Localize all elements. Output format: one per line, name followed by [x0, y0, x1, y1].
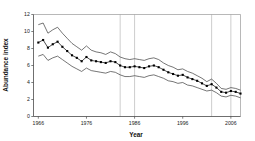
data-point-marker [215, 87, 217, 89]
data-point-marker [206, 85, 208, 87]
data-point-marker [153, 64, 155, 66]
x-tick-label-1986: 1986 [129, 120, 141, 126]
data-point-marker [167, 71, 169, 73]
x-tick-label-1976: 1976 [81, 120, 93, 126]
data-point-marker [162, 69, 164, 71]
data-point-marker [129, 66, 131, 68]
data-point-marker [134, 65, 136, 67]
data-point-marker [187, 76, 189, 78]
data-point-marker [191, 78, 193, 80]
chart-canvas: 19661976198619962006 024681012 Year Abun… [0, 0, 255, 141]
data-point-marker [158, 66, 160, 68]
data-point-marker [109, 60, 111, 62]
data-point-marker [124, 66, 126, 68]
y-tick-label-6: 6 [27, 62, 30, 68]
data-point-marker [47, 47, 49, 49]
data-point-marker [100, 61, 102, 63]
data-point-marker [201, 82, 203, 84]
data-point-marker [177, 75, 179, 77]
y-tick-label-10: 10 [24, 28, 30, 34]
y-tick-label-12: 12 [24, 11, 30, 17]
y-tick-label-4: 4 [27, 79, 30, 85]
data-point-marker [235, 91, 237, 93]
data-point-marker [37, 42, 39, 44]
data-point-marker [119, 64, 121, 66]
data-point-marker [148, 65, 150, 67]
y-tick-label-2: 2 [27, 96, 30, 102]
data-point-marker [138, 66, 140, 68]
y-axis-title: Abundance index [2, 38, 9, 92]
data-point-marker [52, 43, 54, 45]
data-point-marker [225, 92, 227, 94]
data-point-marker [196, 80, 198, 82]
x-axis-title: Year [129, 131, 143, 138]
data-point-marker [85, 56, 87, 58]
data-point-marker [71, 54, 73, 56]
x-tick-label-2006: 2006 [225, 120, 237, 126]
x-tick-label-1966: 1966 [33, 120, 45, 126]
data-point-marker [42, 39, 44, 41]
data-point-marker [95, 60, 97, 62]
data-point-marker [114, 61, 116, 63]
data-point-marker [220, 91, 222, 93]
data-point-marker [230, 90, 232, 92]
data-point-marker [143, 67, 145, 69]
data-point-marker [172, 73, 174, 75]
data-point-marker [76, 57, 78, 59]
data-point-marker [182, 74, 184, 76]
data-point-marker [105, 62, 107, 64]
data-point-marker [66, 50, 68, 52]
data-point-marker [211, 83, 213, 85]
abundance-index-chart: 19661976198619962006 024681012 Year Abun… [0, 0, 255, 141]
data-point-marker [61, 46, 63, 48]
data-point-marker [239, 93, 241, 95]
y-tick-label-8: 8 [27, 45, 30, 51]
data-point-marker [57, 41, 59, 43]
x-tick-labels: 19661976198619962006 [33, 120, 237, 126]
data-point-marker [81, 60, 83, 62]
y-tick-labels: 024681012 [24, 11, 30, 119]
y-tick-label-0: 0 [27, 113, 30, 119]
plot-background [34, 15, 241, 117]
data-point-marker [90, 59, 92, 61]
x-tick-label-1996: 1996 [177, 120, 189, 126]
